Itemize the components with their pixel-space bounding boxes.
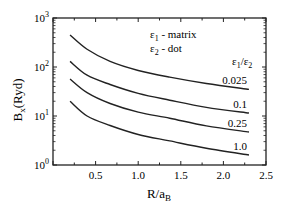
- legend-dot: ε2 - dot: [150, 42, 182, 57]
- y-axis-title: Bx(Ryd): [10, 79, 27, 122]
- curve-label: 0.25: [228, 117, 248, 129]
- y-tick-label: 102: [34, 59, 49, 73]
- y-tick-label: 103: [34, 10, 49, 24]
- y-tick-label: 100: [34, 157, 49, 171]
- x-tick-label: 2.5: [259, 169, 273, 181]
- curve-label: 1.0: [233, 140, 247, 152]
- curve-0.25: [70, 79, 249, 132]
- curve-label: 0.1: [233, 98, 247, 110]
- y-tick-label: 101: [34, 108, 49, 122]
- x-tick-label: 1.0: [131, 169, 145, 181]
- chart: 0.51.01.52.02.51001011021030.0250.10.251…: [0, 0, 287, 213]
- x-tick-label: 0.5: [89, 169, 103, 181]
- x-tick-label: 1.5: [174, 169, 188, 181]
- curve-0.1: [70, 61, 249, 113]
- x-tick-label: 2.0: [217, 169, 231, 181]
- curve-label: 0.025: [222, 74, 247, 86]
- x-axis-title: R/aB: [147, 186, 171, 203]
- legend-matrix: ε1 - matrix: [150, 28, 197, 43]
- series-header: ε1/ε2: [232, 55, 252, 70]
